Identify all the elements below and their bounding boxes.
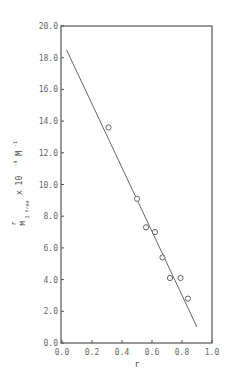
data-point-circle <box>152 229 157 234</box>
data-point-circle <box>160 255 165 260</box>
svg-text:r M 2 free x: r M 2 free x 10 -4 M -1 <box>9 141 31 226</box>
y-tick-label: 0.0 <box>44 339 59 348</box>
ylabel-fraction: r <box>10 221 18 225</box>
x-tick-label: 1.0 <box>205 348 220 357</box>
y-tick-label: 12.0 <box>39 149 58 158</box>
x-tick-label: 0.0 <box>55 348 70 357</box>
fit-line <box>67 50 198 327</box>
y-tick-label: 16.0 <box>39 85 58 94</box>
scatchard-plot: 0.02.04.06.08.010.012.014.016.018.020.0 … <box>0 0 233 380</box>
y-tick-label: 20.0 <box>39 22 58 31</box>
ylabel-mult: x 10 <box>15 176 24 195</box>
data-point-circle <box>178 275 183 280</box>
x-axis-label: r <box>135 360 140 369</box>
plot-frame <box>61 26 212 343</box>
y-tick-label: 8.0 <box>44 212 59 221</box>
y-tick-label: 14.0 <box>39 117 58 126</box>
y-tick-label: 6.0 <box>44 244 59 253</box>
y-tick-label: 10.0 <box>39 181 58 190</box>
ylabel-unit: M <box>15 151 24 156</box>
ylabel-exp: -4 <box>12 160 18 166</box>
y-tick-label: 2.0 <box>44 307 59 316</box>
regression-line <box>67 50 198 327</box>
data-point-circle <box>185 296 190 301</box>
data-point-circle <box>106 125 111 130</box>
plot-border <box>61 26 212 343</box>
x-tick-label: 0.2 <box>85 348 100 357</box>
ylabel-denominator: M <box>19 221 27 225</box>
y-axis-ticks: 0.02.04.06.08.010.012.014.016.018.020.0 <box>39 22 64 348</box>
data-point-circle <box>143 225 148 230</box>
y-tick-label: 18.0 <box>39 54 58 63</box>
data-points <box>106 125 191 301</box>
y-axis-label: r M 2 free x 10 -4 M -1 <box>9 141 31 226</box>
ylabel-unit-exp: -1 <box>12 141 18 147</box>
y-tick-label: 4.0 <box>44 276 59 285</box>
ylabel-sub: 2 free <box>24 200 30 218</box>
data-point-circle <box>167 275 172 280</box>
x-tick-label: 0.6 <box>145 348 160 357</box>
x-tick-label: 0.8 <box>175 348 190 357</box>
x-tick-label: 0.4 <box>115 348 130 357</box>
data-point-circle <box>134 196 139 201</box>
